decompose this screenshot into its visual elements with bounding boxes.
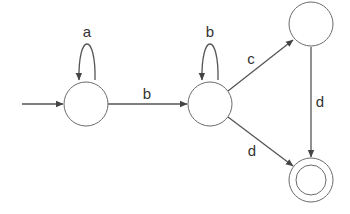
self-loop-s0: [79, 44, 95, 80]
state-s0: [64, 82, 108, 126]
state-s2: [289, 2, 333, 46]
state-s1: [188, 82, 232, 126]
state-diagram: a b b c d d: [0, 0, 350, 214]
edge-s1-s3: [228, 117, 293, 166]
self-loop-s1: [202, 44, 218, 80]
label-s1-s3: d: [248, 142, 256, 159]
label-s0-s1: b: [143, 85, 151, 102]
edge-s1-s2: [228, 40, 293, 91]
label-loop-s0: a: [83, 23, 92, 40]
accept-inner-ring: [296, 165, 326, 195]
label-loop-s1: b: [206, 23, 214, 40]
label-s1-s2: c: [247, 50, 255, 67]
state-s3-accepting: [289, 158, 333, 202]
label-s2-s3: d: [316, 93, 324, 110]
